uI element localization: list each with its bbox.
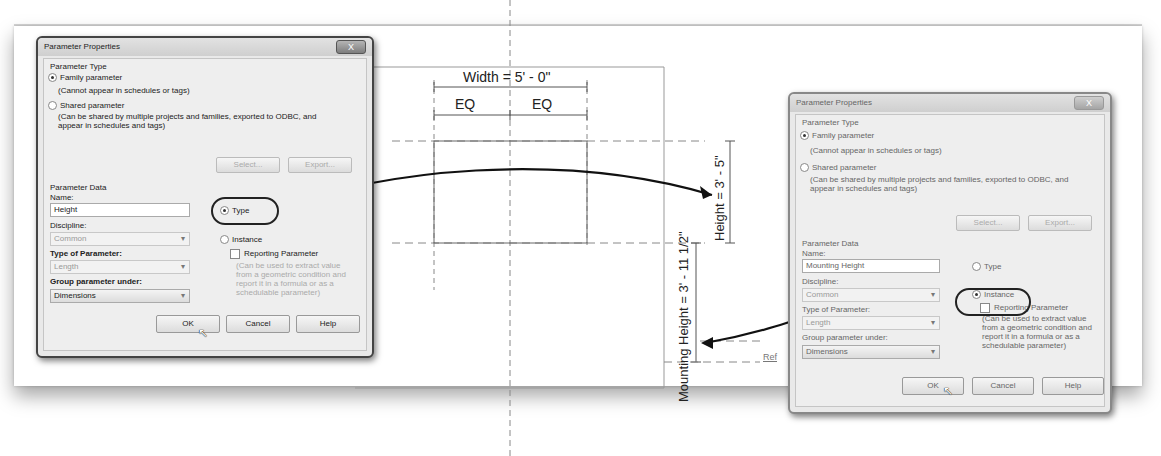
reporting-note-1: (Can be used to extract value — [236, 261, 341, 270]
radio-unselected-icon — [800, 163, 809, 172]
close-button[interactable]: X — [336, 40, 366, 54]
shared-parameter-radio[interactable]: Shared parameter — [48, 101, 124, 110]
parameter-properties-dialog-left: Parameter Properties X Parameter Type Fa… — [36, 36, 374, 358]
parameter-properties-dialog-right: Parameter Properties X Parameter Type Fa… — [788, 92, 1112, 414]
reporting-note-4: schedulable parameter) — [982, 341, 1066, 350]
type-callout-highlight — [211, 197, 279, 225]
dialog-body: Parameter Type Family parameter (Cannot … — [43, 58, 367, 351]
family-note: (Cannot appear in schedules or tags) — [58, 86, 190, 95]
family-parameter-label: Family parameter — [812, 131, 874, 140]
group-parameter-label: Group parameter under: — [802, 333, 888, 342]
mouse-cursor-icon: ↖ — [198, 326, 208, 340]
help-button[interactable]: Help — [296, 315, 360, 333]
parameter-data-header: Parameter Data — [50, 183, 106, 192]
shared-note-1: (Can be shared by multiple projects and … — [810, 175, 1068, 184]
width-dimension-label: Width = 5' - 0" — [463, 69, 550, 85]
group-parameter-select[interactable]: Dimensions — [50, 289, 190, 303]
reporting-note-2: from a geometric condition and — [236, 270, 346, 279]
type-of-parameter-select[interactable]: Length — [802, 316, 940, 330]
parameter-type-header: Parameter Type — [802, 118, 859, 127]
shared-parameter-radio[interactable]: Shared parameter — [800, 163, 876, 172]
dialog-titlebar[interactable]: Parameter Properties X — [38, 38, 372, 56]
discipline-label: Discipline: — [802, 277, 838, 286]
radio-unselected-icon — [972, 262, 981, 271]
export-button[interactable]: Export... — [1028, 215, 1092, 231]
family-note: (Cannot appear in schedules or tags) — [810, 146, 942, 155]
type-of-parameter-label: Type of Parameter: — [802, 305, 870, 314]
close-button[interactable]: X — [1074, 96, 1104, 110]
group-parameter-label: Group parameter under: — [50, 277, 142, 286]
reporting-note-2: from a geometric condition and — [982, 323, 1092, 332]
instance-radio-label: Instance — [232, 235, 262, 244]
shared-note-2: appear in schedules and tags) — [58, 121, 165, 130]
export-button[interactable]: Export... — [288, 157, 352, 173]
family-parameter-radio[interactable]: Family parameter — [800, 131, 874, 140]
ref-label: Ref — [763, 352, 777, 362]
reporting-note-3: report it in a formula or as a — [982, 332, 1080, 341]
radio-unselected-icon — [220, 235, 229, 244]
reporting-note-3: report it in a formula or as a — [236, 279, 334, 288]
reporting-parameter-checkbox[interactable]: Reporting Parameter — [230, 249, 318, 259]
cancel-button[interactable]: Cancel — [972, 377, 1034, 395]
family-parameter-label: Family parameter — [60, 73, 122, 82]
type-of-parameter-label: Type of Parameter: — [50, 249, 122, 258]
dialog-title: Parameter Properties — [796, 98, 872, 107]
type-radio[interactable]: Type — [972, 262, 1001, 271]
dialog-body: Parameter Type Family parameter (Cannot … — [795, 114, 1105, 407]
checkbox-icon — [230, 249, 240, 259]
dialog-titlebar[interactable]: Parameter Properties X — [790, 94, 1110, 112]
group-parameter-select[interactable]: Dimensions — [802, 345, 940, 359]
name-label: Name: — [50, 193, 74, 202]
parameter-data-header: Parameter Data — [802, 239, 858, 248]
reporting-parameter-label: Reporting Parameter — [244, 249, 318, 258]
eq-left-label: EQ — [455, 96, 475, 112]
instance-callout-highlight — [955, 288, 1031, 316]
height-dimension-label: Height = 3' - 5" — [712, 155, 727, 241]
ok-button[interactable]: OK — [156, 315, 220, 333]
radio-selected-icon — [48, 73, 57, 82]
type-of-parameter-select[interactable]: Length — [50, 260, 190, 274]
parameter-type-header: Parameter Type — [50, 62, 107, 71]
shared-note-2: appear in schedules and tags) — [810, 184, 917, 193]
shared-note-1: (Can be shared by multiple projects and … — [58, 112, 316, 121]
name-input[interactable]: Height — [50, 203, 190, 217]
discipline-select[interactable]: Common — [50, 232, 190, 246]
radio-unselected-icon — [48, 101, 57, 110]
name-input[interactable]: Mounting Height — [802, 259, 940, 273]
select-button[interactable]: Select... — [216, 157, 280, 173]
reporting-note-4: schedulable parameter) — [236, 288, 320, 297]
discipline-select[interactable]: Common — [802, 288, 940, 302]
mounting-height-dimension-label: Mounting Height = 3' - 11 1/2" — [676, 231, 691, 402]
radio-selected-icon — [800, 131, 809, 140]
discipline-label: Discipline: — [50, 221, 86, 230]
eq-right-label: EQ — [532, 96, 552, 112]
shared-parameter-label: Shared parameter — [60, 101, 124, 110]
instance-radio[interactable]: Instance — [220, 235, 262, 244]
dialog-title: Parameter Properties — [44, 42, 120, 51]
family-parameter-radio[interactable]: Family parameter — [48, 73, 122, 82]
name-label: Name: — [802, 249, 826, 258]
cancel-button[interactable]: Cancel — [226, 315, 290, 333]
ok-button[interactable]: OK — [902, 377, 964, 395]
help-button[interactable]: Help — [1042, 377, 1104, 395]
mouse-cursor-icon: ↖ — [943, 384, 953, 398]
type-radio-label: Type — [984, 262, 1001, 271]
select-button[interactable]: Select... — [956, 215, 1020, 231]
shared-parameter-label: Shared parameter — [812, 163, 876, 172]
